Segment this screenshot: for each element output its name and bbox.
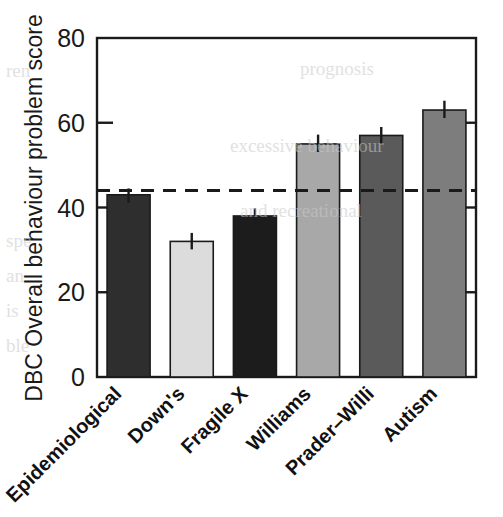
bar-chart: 020406080 EpidemiologicalDown'sFragile X… [0,0,503,517]
figure-container: prognosis excessive behaviour and recrea… [0,0,503,517]
y-axis-tick-labels: 020406080 [57,24,85,391]
x-category-label: Fragile X [176,382,252,458]
bar [233,216,276,377]
y-tick-label: 20 [57,278,85,306]
bar [360,135,403,377]
y-tick-label: 0 [71,363,85,391]
plot-frame [97,38,476,377]
y-axis-title: DBC Overall behaviour problem score [21,14,47,401]
bar [107,195,150,377]
bar-series [107,110,466,377]
y-tick-label: 40 [57,194,85,222]
bar [423,110,466,377]
bar [170,241,213,377]
y-tick-label: 80 [57,24,85,52]
x-category-label: Down's [123,382,188,447]
bar [297,144,340,377]
x-axis-category-labels: EpidemiologicalDown'sFragile XWilliamsPr… [1,382,441,506]
x-category-label: Autism [378,382,441,445]
y-tick-label: 60 [57,109,85,137]
x-category-label: Epidemiological [1,382,125,506]
